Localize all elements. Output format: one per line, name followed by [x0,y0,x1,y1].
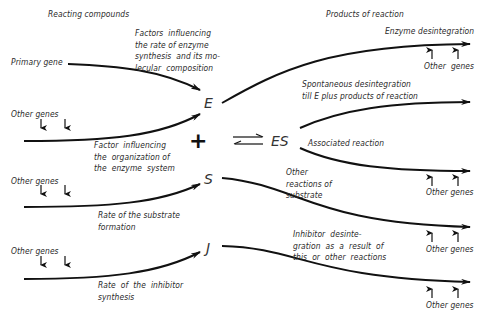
reacting-compounds-header: Reacting compounds [48,9,129,21]
substrate-rate-label: Rate of the substrate formation [98,210,180,233]
associated-reaction-label: Associated reaction [308,138,384,150]
enzyme-reaction-diagram [0,0,485,321]
other-genes-output-label-2: Other genes [426,187,474,199]
enzyme-synthesis-factors-label: Factors influencing the rate of enzyme s… [135,28,220,74]
other-reactions-arrow [222,178,470,227]
products-of-reaction-header: Products of reaction [326,9,404,21]
inhibitor-disintegration-label: Inhibitor desinte- gration as a result o… [293,229,386,264]
spontaneous-disintegration-label: Spontaneous desintegration till E plus p… [302,79,418,102]
other-genes-output-label-4: Other genes [426,300,474,312]
substrate-symbol: S [204,172,213,186]
inhibitor-rate-label: Rate of the inhibitor synthesis [98,280,183,303]
enzyme-disintegration-label: Enzyme desintegration [385,26,474,38]
inhibitor-symbol: J [206,241,210,255]
spontaneous-disintegration-arrow [300,102,470,128]
organization-factor-label: Factor influencing the organization of t… [94,140,175,175]
gene-output-markers [432,50,458,298]
other-genes-label-3: Other genes [11,246,59,258]
enzyme-substrate-complex-symbol: ES [271,134,289,148]
other-reactions-label: Other reactions of substrate [286,167,332,202]
other-genes-output-label-3: Other genes [426,244,474,256]
enzyme-symbol: E [204,96,213,110]
primary-gene-label: Primary gene [11,57,63,69]
equilibrium-arrows [233,134,263,144]
plus-symbol: + [189,130,207,152]
other-genes-output-label-1: Other genes [424,61,474,73]
other-genes-label-2: Other genes [11,176,59,188]
other-genes-label-1: Other genes [11,109,59,121]
